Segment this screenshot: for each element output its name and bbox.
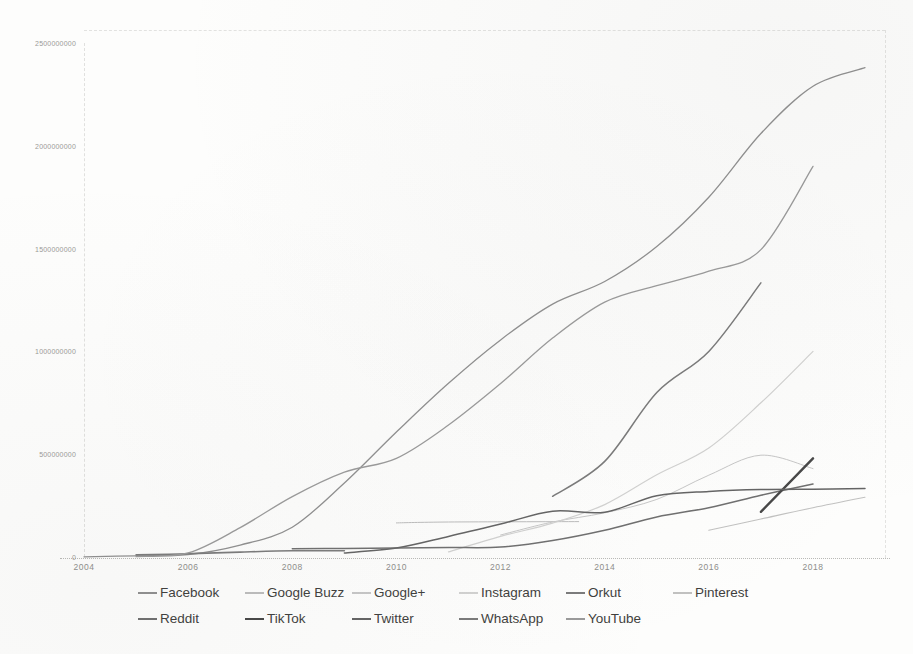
legend-item-youtube: YouTube bbox=[566, 611, 673, 626]
legend-label: WhatsApp bbox=[481, 611, 543, 626]
legend-label: Facebook bbox=[160, 585, 219, 600]
legend-label: Google+ bbox=[374, 585, 425, 600]
legend-line-swatch bbox=[245, 592, 264, 594]
legend-label: Orkut bbox=[588, 585, 621, 600]
legend-line-swatch bbox=[245, 618, 264, 620]
legend-item-twitter: Twitter bbox=[352, 611, 459, 626]
line-chart-canvas bbox=[0, 0, 913, 654]
legend-label: TikTok bbox=[267, 611, 306, 626]
legend-row-2: RedditTikTokTwitterWhatsAppYouTube bbox=[138, 611, 673, 626]
legend-line-swatch bbox=[138, 592, 157, 594]
legend-line-swatch bbox=[138, 618, 157, 620]
legend-line-swatch bbox=[459, 618, 478, 620]
legend-line-swatch bbox=[566, 592, 585, 594]
legend-label: Pinterest bbox=[695, 585, 748, 600]
series-line-orkut bbox=[136, 551, 344, 555]
series-line-twitter bbox=[344, 489, 865, 553]
legend-item-google-buzz: Google Buzz bbox=[245, 585, 352, 600]
legend-line-swatch bbox=[566, 618, 585, 620]
legend-item-whatsapp: WhatsApp bbox=[459, 611, 566, 626]
legend-row-1: FacebookGoogle BuzzGoogle+InstagramOrkut… bbox=[138, 585, 780, 600]
legend-line-swatch bbox=[673, 592, 692, 594]
series-line-facebook bbox=[84, 68, 865, 557]
legend-item-pinterest: Pinterest bbox=[673, 585, 780, 600]
legend-line-swatch bbox=[352, 592, 371, 594]
legend-label: Instagram bbox=[481, 585, 541, 600]
legend-item-tiktok: TikTok bbox=[245, 611, 352, 626]
scanned-chart-page: 0500000000100000000015000000002000000000… bbox=[0, 0, 913, 654]
legend-label: YouTube bbox=[588, 611, 641, 626]
series-line-reddit bbox=[292, 484, 813, 549]
legend-item-reddit: Reddit bbox=[138, 611, 245, 626]
legend-label: Google Buzz bbox=[267, 585, 344, 600]
legend-line-swatch bbox=[352, 618, 371, 620]
legend-item-google-: Google+ bbox=[352, 585, 459, 600]
legend-item-facebook: Facebook bbox=[138, 585, 245, 600]
legend-label: Twitter bbox=[374, 611, 414, 626]
legend-item-instagram: Instagram bbox=[459, 585, 566, 600]
legend-line-swatch bbox=[459, 592, 478, 594]
legend-label: Reddit bbox=[160, 611, 199, 626]
legend-item-orkut: Orkut bbox=[566, 585, 673, 600]
